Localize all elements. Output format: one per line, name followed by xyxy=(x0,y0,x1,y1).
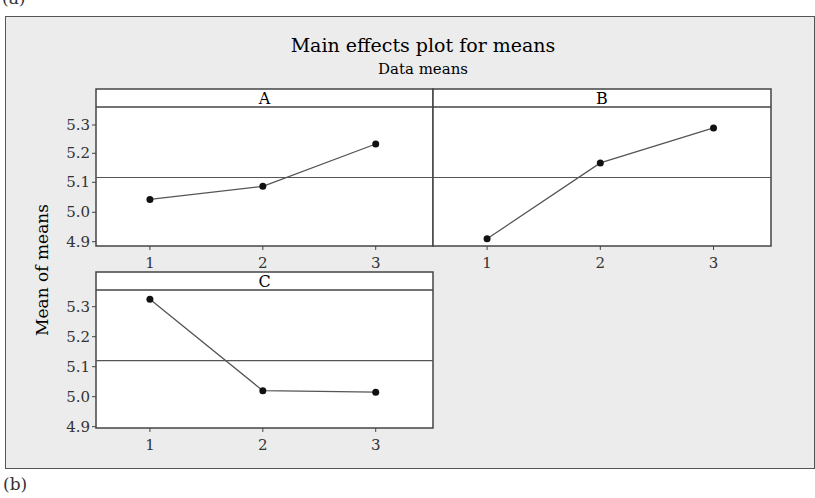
data-point xyxy=(710,124,717,131)
y-tick-label: 5.1 xyxy=(66,358,90,376)
y-tick-label: 5.2 xyxy=(66,144,90,162)
x-tick-label: 2 xyxy=(258,436,268,454)
x-tick-label: 3 xyxy=(371,436,381,454)
panel-strip-label: C xyxy=(258,272,270,291)
y-tick-label: 5.3 xyxy=(66,116,90,134)
panel-strip-label: B xyxy=(596,89,608,108)
x-tick-label: 2 xyxy=(258,254,268,272)
data-point xyxy=(259,183,266,190)
data-point xyxy=(259,387,266,394)
y-axis-label: Mean of means xyxy=(32,204,52,336)
panel-c: C4.95.05.15.25.3123 xyxy=(66,272,433,454)
x-tick-label: 3 xyxy=(709,254,719,272)
y-tick-label: 4.9 xyxy=(66,418,90,436)
x-tick-label: 1 xyxy=(145,254,155,272)
panels-group: A4.95.05.15.25.3123B123C4.95.05.15.25.31… xyxy=(66,89,771,454)
data-point xyxy=(484,235,491,242)
figure-label-b: (b) xyxy=(3,474,27,494)
y-tick-label: 5.0 xyxy=(66,388,90,406)
panel-box xyxy=(96,272,433,428)
panel-b: B123 xyxy=(433,89,771,272)
y-tick-label: 5.2 xyxy=(66,328,90,346)
data-point xyxy=(146,196,153,203)
y-tick-label: 5.3 xyxy=(66,298,90,316)
panel-box xyxy=(96,89,433,246)
x-tick-label: 1 xyxy=(145,436,155,454)
x-tick-label: 2 xyxy=(596,254,606,272)
panel-strip-label: A xyxy=(258,89,271,108)
panel-a: A4.95.05.15.25.3123 xyxy=(66,89,433,272)
data-point xyxy=(372,140,379,147)
x-tick-label: 1 xyxy=(482,254,492,272)
chart-subtitle: Data means xyxy=(378,60,468,78)
y-tick-label: 5.0 xyxy=(66,203,90,221)
y-tick-label: 5.1 xyxy=(66,173,90,191)
panel-box xyxy=(433,89,771,246)
chart-title: Main effects plot for means xyxy=(291,34,556,56)
x-tick-label: 3 xyxy=(371,254,381,272)
data-point xyxy=(372,389,379,396)
data-point xyxy=(597,159,604,166)
data-point xyxy=(146,296,153,303)
y-tick-label: 4.9 xyxy=(66,233,90,251)
